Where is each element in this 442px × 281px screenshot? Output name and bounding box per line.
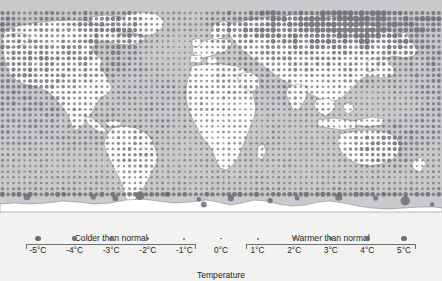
anomaly-dot xyxy=(326,27,331,32)
anomaly-dot xyxy=(111,40,114,43)
anomaly-dot xyxy=(355,85,358,88)
anomaly-dot xyxy=(283,176,285,178)
anomaly-dot xyxy=(173,165,175,167)
anomaly-dot xyxy=(161,187,164,190)
anomaly-dot xyxy=(200,12,202,14)
anomaly-dot xyxy=(222,108,225,111)
anomaly-dot xyxy=(327,170,330,173)
anomaly-dot xyxy=(427,170,429,172)
anomaly-dot xyxy=(28,73,32,77)
anomaly-dot xyxy=(294,114,297,117)
anomaly-dot xyxy=(299,74,302,77)
anomaly-dot xyxy=(61,45,65,49)
anomaly-dot xyxy=(34,28,38,32)
anomaly-dot xyxy=(333,159,335,161)
anomaly-dot xyxy=(101,125,104,128)
anomaly-dot xyxy=(388,91,390,93)
anomaly-dot xyxy=(415,176,418,179)
anomaly-dot xyxy=(73,125,76,128)
anomaly-dot xyxy=(94,39,99,44)
anomaly-dot xyxy=(34,131,37,134)
anomaly-dot xyxy=(360,131,363,134)
anomaly-dot xyxy=(421,182,423,184)
anomaly-dot xyxy=(105,68,109,72)
anomaly-dot xyxy=(233,91,236,94)
anomaly-dot xyxy=(353,16,359,22)
anomaly-dot xyxy=(139,28,142,31)
anomaly-dot xyxy=(349,68,353,72)
anomaly-dot xyxy=(145,91,148,94)
anomaly-dot xyxy=(89,114,92,117)
anomaly-dot xyxy=(23,45,27,49)
anomaly-dot xyxy=(56,62,59,65)
anomaly-dot xyxy=(415,170,418,173)
anomaly-dot xyxy=(222,176,224,178)
anomaly-dot xyxy=(123,182,126,185)
anomaly-dot xyxy=(311,165,313,167)
anomaly-dot xyxy=(101,176,104,179)
anomaly-dot xyxy=(321,51,324,54)
legend-item-label: 4°C xyxy=(350,245,384,256)
anomaly-dot xyxy=(23,171,25,173)
anomaly-dot xyxy=(382,80,385,83)
anomaly-dot xyxy=(364,16,370,22)
anomaly-dot xyxy=(122,147,125,150)
anomaly-dot xyxy=(161,119,164,122)
anomaly-dot xyxy=(29,187,32,190)
anomaly-dot xyxy=(222,17,226,21)
anomaly-dot xyxy=(216,85,219,88)
anomaly-dot xyxy=(387,51,391,55)
anomaly-dot xyxy=(62,28,65,31)
anomaly-dot xyxy=(338,97,340,99)
anomaly-dot xyxy=(228,182,230,184)
anomaly-dot xyxy=(112,176,115,179)
anomaly-dot xyxy=(45,125,48,128)
anomaly-dot xyxy=(133,136,137,140)
anomaly-dot xyxy=(393,170,396,173)
anomaly-dot xyxy=(316,74,319,77)
anomaly-dot xyxy=(101,108,104,111)
anomaly-dot xyxy=(189,148,192,151)
anomaly-dot xyxy=(293,68,297,72)
anomaly-dot xyxy=(67,108,70,111)
anomaly-dot xyxy=(161,91,164,94)
anomaly-dot xyxy=(61,17,65,21)
anomaly-dot xyxy=(206,80,209,83)
anomaly-dot xyxy=(366,182,369,185)
anomaly-dot xyxy=(95,148,98,151)
anomaly-dot xyxy=(12,85,16,89)
anomaly-dot xyxy=(282,28,286,32)
anomaly-dot xyxy=(233,153,236,156)
anomaly-dot xyxy=(371,170,374,173)
anomaly-dot xyxy=(349,97,352,100)
anomaly-dot xyxy=(299,192,304,197)
anomaly-dot xyxy=(282,56,286,60)
anomaly-dot xyxy=(45,45,49,49)
anomaly-dot xyxy=(67,102,70,105)
anomaly-dot xyxy=(216,28,220,32)
anomaly-dot xyxy=(156,46,158,48)
anomaly-dot xyxy=(167,153,169,155)
anomaly-dot xyxy=(73,187,76,190)
anomaly-dot xyxy=(6,74,9,77)
anomaly-dot xyxy=(200,80,203,83)
anomaly-dot xyxy=(333,148,335,150)
anomaly-dot xyxy=(375,27,381,33)
anomaly-dot xyxy=(388,114,391,117)
anomaly-dot xyxy=(293,33,298,38)
anomaly-dot xyxy=(11,192,16,197)
anomaly-dot xyxy=(205,85,208,88)
anomaly-dot xyxy=(183,17,186,20)
legend-item-label: 1°C xyxy=(241,245,275,256)
anomaly-dot xyxy=(217,182,220,185)
anomaly-dot xyxy=(261,57,264,60)
anomaly-dot xyxy=(250,74,253,77)
anomaly-dot xyxy=(17,39,21,43)
legend-item-label: -3°C xyxy=(94,245,128,256)
anomaly-dot xyxy=(283,68,286,71)
anomaly-dot xyxy=(128,182,130,184)
anomaly-dot xyxy=(34,124,38,128)
anomaly-dot xyxy=(106,85,109,88)
anomaly-dot xyxy=(404,114,407,117)
anomaly-dot xyxy=(437,28,441,32)
